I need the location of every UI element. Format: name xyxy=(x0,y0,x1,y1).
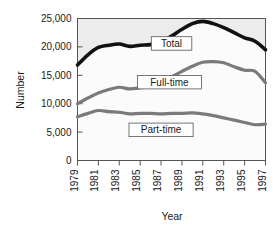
x-tick-label: 1995 xyxy=(236,169,247,192)
x-tick-label: 1979 xyxy=(69,169,80,192)
x-tick-label: 1997 xyxy=(257,169,268,192)
series-label-part-time: Part-time xyxy=(129,123,193,137)
series-label-text: Part-time xyxy=(141,124,182,135)
x-tick-label: 1985 xyxy=(131,169,142,192)
y-tick-label: 10,000 xyxy=(41,98,72,109)
y-tick-label: 5,000 xyxy=(46,127,71,138)
x-tick-label: 1993 xyxy=(215,169,226,192)
x-axis-title: Year xyxy=(161,210,183,222)
series-label-full-time: Full-time xyxy=(137,75,201,89)
series-label-text: Total xyxy=(161,38,182,49)
x-tick-label: 1991 xyxy=(194,169,205,192)
line-chart: 05,00010,00015,00020,00025,000 197919811… xyxy=(0,0,279,227)
x-tick-label: 1983 xyxy=(110,169,121,192)
series-label-total: Total xyxy=(151,37,192,51)
x-tick-label: 1987 xyxy=(152,169,163,192)
x-tick-label: 1989 xyxy=(173,169,184,192)
y-tick-label: 15,000 xyxy=(41,70,72,81)
y-tick-label: 20,000 xyxy=(41,41,72,52)
y-tick-label: 25,000 xyxy=(41,13,72,24)
series-label-text: Full-time xyxy=(150,77,189,88)
y-tick-label: 0 xyxy=(66,155,72,166)
x-axis: 1979198119831985198719891991199319951997 xyxy=(69,161,268,192)
y-axis: 05,00010,00015,00020,00025,000 xyxy=(41,13,83,166)
chart-container: 05,00010,00015,00020,00025,000 197919811… xyxy=(0,0,279,227)
x-tick-label: 1981 xyxy=(89,169,100,192)
y-axis-title: Number xyxy=(14,71,26,109)
